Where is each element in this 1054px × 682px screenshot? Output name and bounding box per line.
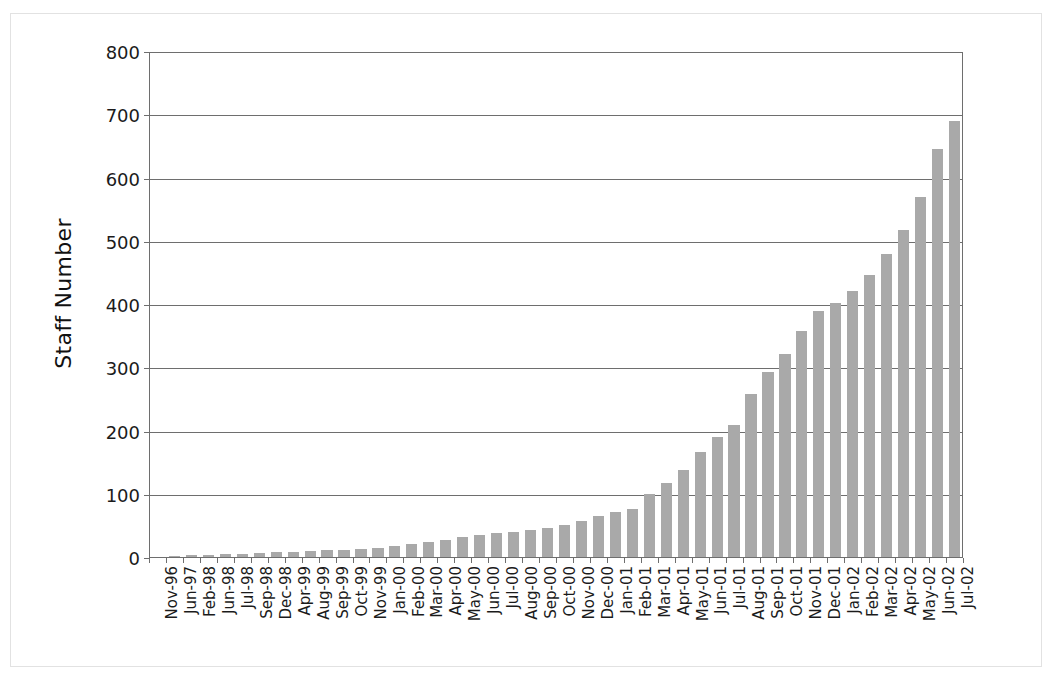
x-tick-mark xyxy=(692,558,693,563)
bar xyxy=(712,437,723,558)
bar xyxy=(678,470,689,558)
x-tick-mark xyxy=(251,558,252,563)
x-tick-label: Jul-00 xyxy=(504,566,522,609)
x-tick-label: Sep-99 xyxy=(334,566,352,619)
bar xyxy=(796,331,807,558)
x-tick-mark xyxy=(285,558,286,563)
bar xyxy=(389,546,400,558)
bar xyxy=(610,512,621,558)
x-tick-mark xyxy=(505,558,506,563)
bar xyxy=(491,533,502,558)
x-tick-label: Jun-97 xyxy=(182,566,200,614)
bar xyxy=(661,483,672,558)
bar xyxy=(152,557,163,558)
x-tick-label: Sep-98 xyxy=(258,566,276,619)
bar xyxy=(525,530,536,558)
x-tick-mark xyxy=(556,558,557,563)
x-tick-label: Nov-96 xyxy=(163,566,181,619)
bar xyxy=(440,540,451,558)
x-tick-mark xyxy=(268,558,269,563)
bar xyxy=(695,452,706,558)
x-tick-mark xyxy=(454,558,455,563)
y-tick-label: 800 xyxy=(106,42,140,63)
x-tick-mark xyxy=(403,558,404,563)
x-tick-mark xyxy=(471,558,472,563)
x-tick-mark xyxy=(607,558,608,563)
bar xyxy=(474,535,485,558)
x-tick-mark xyxy=(539,558,540,563)
x-tick-label: Oct-00 xyxy=(561,566,579,616)
x-tick-label: Aug-00 xyxy=(523,566,541,620)
bar xyxy=(728,425,739,558)
y-tick-label: 700 xyxy=(106,105,140,126)
x-tick-mark xyxy=(726,558,727,563)
x-tick-mark xyxy=(590,558,591,563)
x-tick-label: Feb-00 xyxy=(410,566,428,617)
bar xyxy=(813,311,824,558)
bar xyxy=(220,554,231,558)
bar xyxy=(237,554,248,558)
x-tick-label: May-00 xyxy=(466,566,484,621)
bar xyxy=(406,544,417,558)
x-tick-mark xyxy=(200,558,201,563)
x-tick-mark xyxy=(878,558,879,563)
x-tick-label: Feb-02 xyxy=(864,566,882,617)
x-tick-label: Mar-01 xyxy=(656,566,674,618)
x-tick-mark xyxy=(437,558,438,563)
x-tick-label: Sep-00 xyxy=(542,566,560,619)
x-tick-mark xyxy=(776,558,777,563)
plot-area: 0100200300400500600700800 Nov-96Jun-97Fe… xyxy=(149,52,963,558)
x-tick-mark xyxy=(675,558,676,563)
y-axis-title: Staff Number xyxy=(51,184,76,404)
bar xyxy=(932,149,943,558)
bar xyxy=(881,254,892,558)
chart-figure: Staff Number 0100200300400500600700800 N… xyxy=(0,0,1054,682)
bar xyxy=(338,550,349,558)
x-tick-mark xyxy=(420,558,421,563)
x-tick-label: Jan-01 xyxy=(618,566,636,614)
x-tick-label: Nov-99 xyxy=(372,566,390,619)
x-tick-mark xyxy=(353,558,354,563)
x-tick-mark xyxy=(709,558,710,563)
x-tick-mark xyxy=(217,558,218,563)
bar xyxy=(423,542,434,558)
bar xyxy=(830,303,841,558)
x-tick-label: Oct-01 xyxy=(788,566,806,616)
x-tick-label: Feb-01 xyxy=(637,566,655,617)
bar xyxy=(745,394,756,558)
x-tick-mark xyxy=(810,558,811,563)
x-tick-mark xyxy=(844,558,845,563)
bar xyxy=(271,552,282,558)
x-tick-label: Jul-01 xyxy=(731,566,749,609)
x-tick-mark xyxy=(488,558,489,563)
x-tick-mark xyxy=(793,558,794,563)
x-tick-label: Jun-98 xyxy=(220,566,238,614)
bar xyxy=(372,548,383,558)
x-tick-label: Oct-99 xyxy=(353,566,371,616)
bar xyxy=(203,555,214,558)
bar xyxy=(949,121,960,558)
x-tick-mark xyxy=(912,558,913,563)
x-tick-label: Jan-02 xyxy=(845,566,863,614)
x-tick-label: Aug-99 xyxy=(315,566,333,620)
x-tick-label: Dec-00 xyxy=(599,566,617,620)
x-tick-label: Apr-02 xyxy=(902,566,920,616)
bar xyxy=(542,528,553,558)
x-tick-label: Apr-00 xyxy=(447,566,465,616)
y-tick-label: 0 xyxy=(129,548,140,569)
x-tick-mark xyxy=(369,558,370,563)
bars-group xyxy=(149,52,963,558)
x-tick-label: Nov-00 xyxy=(580,566,598,619)
x-tick-label: Jan-00 xyxy=(391,566,409,614)
bar xyxy=(779,354,790,558)
x-tick-mark xyxy=(760,558,761,563)
x-tick-mark xyxy=(861,558,862,563)
bar xyxy=(915,197,926,558)
bar xyxy=(305,551,316,558)
bar xyxy=(847,291,858,558)
y-tick-label: 300 xyxy=(106,358,140,379)
bar xyxy=(864,275,875,558)
x-tick-mark xyxy=(895,558,896,563)
x-tick-label: Jun-02 xyxy=(940,566,958,614)
bar xyxy=(186,555,197,558)
